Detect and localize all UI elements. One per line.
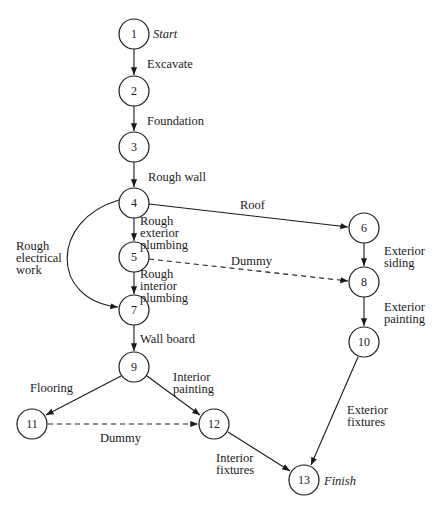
label-ext-fixtures-2: fixtures [347, 415, 385, 429]
node-number: 2 [131, 84, 137, 98]
node-number: 11 [26, 417, 38, 431]
node-11: 11 [17, 409, 47, 439]
edge-4-7-curve [67, 200, 119, 307]
label-excavate: Excavate [147, 57, 193, 71]
label-ext-painting-2: painting [384, 312, 426, 326]
node-10: 10 [349, 327, 379, 357]
node-1: 1 [119, 19, 149, 49]
node-2: 2 [119, 76, 149, 106]
node-12: 12 [199, 409, 229, 439]
label-rough-elec-3: work [16, 263, 42, 277]
label-rough-ext-plumb-3: plumbing [140, 238, 189, 252]
node-6: 6 [349, 213, 379, 243]
node-number: 13 [298, 473, 310, 487]
node-3: 3 [119, 132, 149, 162]
label-roof: Roof [240, 198, 266, 212]
node-9: 9 [119, 352, 149, 382]
node-number: 8 [361, 275, 367, 289]
node-number: 10 [358, 335, 370, 349]
label-foundation: Foundation [147, 114, 205, 128]
node-number: 1 [131, 27, 137, 41]
network-diagram: 1 2 3 4 5 6 7 8 9 10 11 12 13 Start Fini… [0, 0, 443, 506]
label-int-fixtures-2: fixtures [216, 463, 254, 477]
label-rough-wall: Rough wall [148, 170, 207, 184]
node-number: 6 [361, 221, 367, 235]
node-number: 5 [131, 250, 137, 264]
node-number: 3 [131, 140, 137, 154]
start-label: Start [153, 27, 178, 41]
label-ext-siding-2: siding [384, 256, 415, 270]
label-rough-int-plumb-3: plumbing [140, 291, 189, 305]
label-int-painting-2: painting [173, 382, 215, 396]
finish-label: Finish [323, 474, 356, 488]
node-13: 13 [289, 465, 319, 495]
label-dummy-11-12: Dummy [100, 431, 142, 445]
node-number: 9 [131, 360, 137, 374]
label-wall-board: Wall board [140, 332, 196, 346]
label-flooring: Flooring [30, 381, 74, 395]
node-number: 7 [131, 303, 137, 317]
nodes: 1 2 3 4 5 6 7 8 9 10 11 12 13 [17, 19, 379, 495]
node-number: 4 [131, 196, 137, 210]
label-dummy-5-8: Dummy [231, 254, 273, 268]
node-number: 12 [208, 417, 220, 431]
edges [46, 49, 364, 471]
node-8: 8 [349, 267, 379, 297]
